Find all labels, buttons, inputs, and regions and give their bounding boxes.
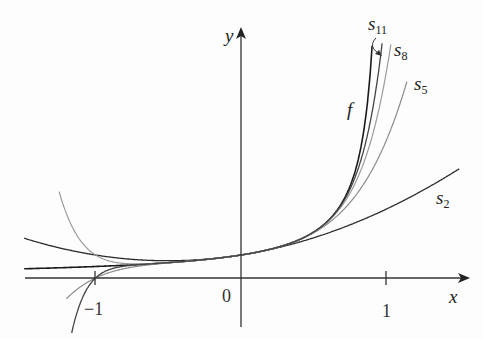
s5-label: s5 — [414, 74, 427, 96]
y-axis-label: y — [225, 26, 233, 45]
curves — [24, 43, 459, 333]
s11-label-sub: 11 — [375, 23, 387, 37]
origin-label: 0 — [222, 287, 231, 305]
tick-label-neg1: −1 — [84, 300, 103, 318]
s2-label: s2 — [436, 188, 449, 210]
figure-taylor-partial-sums: y x 0 1 −1 f s2 s5 s8 s11 — [0, 0, 483, 339]
curve-s8 — [59, 44, 391, 264]
s2-label-sub: 2 — [443, 197, 449, 211]
curve-s2 — [24, 169, 459, 261]
s11-label: s11 — [368, 14, 387, 36]
x-axis-label: x — [449, 287, 457, 306]
s8-label: s8 — [394, 40, 407, 62]
tick-label-1: 1 — [382, 302, 391, 320]
plot-area — [0, 0, 483, 339]
s8-label-sub: 8 — [401, 49, 407, 63]
f-label: f — [347, 100, 352, 119]
s5-label-sub: 5 — [421, 83, 427, 97]
